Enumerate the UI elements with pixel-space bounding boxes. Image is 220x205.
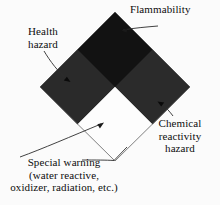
- label-health-hazard: Health hazard: [12, 25, 74, 50]
- leader-line-special-warning-a: [20, 124, 101, 157]
- label-special-warning: Special warning (water reactive, oxidize…: [2, 156, 126, 194]
- label-health-hazard-line-1: Health: [12, 25, 74, 38]
- label-special-warning-line-1: Special warning: [2, 156, 126, 169]
- label-chemical-reactivity-line-2: reactivity: [146, 130, 214, 143]
- label-flammability: Flammability: [130, 3, 190, 16]
- label-special-warning-line-3: oxidizer, radiation, etc.): [2, 181, 126, 194]
- label-chemical-reactivity-line-1: Chemical: [146, 117, 214, 130]
- label-flammability-line-1: Flammability: [130, 3, 190, 16]
- label-chemical-reactivity-line-3: hazard: [146, 142, 214, 155]
- label-chemical-reactivity-hazard: Chemical reactivity hazard: [146, 117, 214, 155]
- label-health-hazard-line-2: hazard: [12, 38, 74, 51]
- nfpa-hazard-diamond-diagram: Flammability Health hazard Chemical reac…: [0, 0, 220, 205]
- label-special-warning-line-2: (water reactive,: [2, 169, 126, 182]
